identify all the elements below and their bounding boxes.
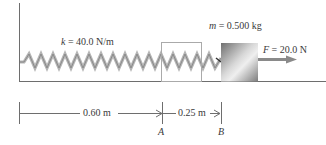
block (221, 43, 258, 82)
point-a-label: A (158, 127, 164, 137)
spring-constant-label: k = 40.0 N/m (61, 37, 114, 47)
mass-value: = 0.500 kg (216, 20, 262, 31)
force-arrow (258, 56, 297, 64)
mass-label: m = 0.500 kg (209, 21, 262, 31)
point-b-label: B (218, 127, 224, 137)
distance-label-1: 0.60 m (83, 108, 111, 118)
distance-label-2: 0.25 m (178, 108, 206, 118)
spring (20, 54, 221, 68)
diagram-canvas (0, 0, 326, 145)
force-label: F = 20.0 N (263, 45, 307, 55)
spring-value: = 40.0 N/m (65, 36, 113, 47)
force-value: = 20.0 N (269, 44, 307, 55)
